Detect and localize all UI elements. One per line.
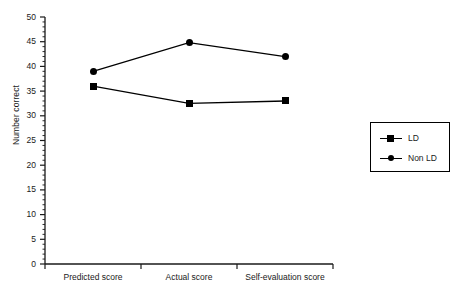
data-point-ld-2 bbox=[282, 97, 289, 104]
legend-label-non-ld: Non LD bbox=[408, 153, 437, 163]
y-tick-label: 45 bbox=[14, 37, 36, 46]
y-tick-label: 5 bbox=[14, 235, 36, 244]
y-tick-label: 50 bbox=[14, 13, 36, 22]
y-axis-ticks bbox=[40, 17, 45, 264]
data-point-ld-0 bbox=[90, 83, 97, 90]
data-point-non-ld-2 bbox=[282, 53, 289, 60]
y-tick-label: 25 bbox=[14, 136, 36, 145]
square-marker-icon bbox=[378, 132, 404, 144]
x-category-label: Predicted score bbox=[45, 272, 141, 282]
legend: LD Non LD bbox=[370, 122, 450, 172]
x-axis-ticks bbox=[45, 264, 333, 269]
y-tick-label: 15 bbox=[14, 185, 36, 194]
legend-entry-non-ld: Non LD bbox=[371, 152, 449, 164]
series-lines bbox=[93, 43, 285, 104]
x-category-label: Self-evaluation score bbox=[237, 272, 333, 282]
data-point-ld-1 bbox=[186, 100, 193, 107]
y-tick-label: 10 bbox=[14, 210, 36, 219]
x-category-label: Actual score bbox=[141, 272, 237, 282]
y-tick-label: 0 bbox=[14, 260, 36, 269]
y-tick-label: 20 bbox=[14, 161, 36, 170]
y-tick-label: 40 bbox=[14, 62, 36, 71]
axis-lines bbox=[45, 17, 333, 264]
y-tick-label: 30 bbox=[14, 111, 36, 120]
legend-entry-ld: LD bbox=[371, 132, 449, 144]
series-line-non-ld bbox=[93, 43, 285, 72]
data-point-non-ld-1 bbox=[186, 39, 193, 46]
y-tick-label: 35 bbox=[14, 87, 36, 96]
data-point-non-ld-0 bbox=[90, 68, 97, 75]
line-chart-figure: Number correct 05101520253035404550 Pred… bbox=[0, 0, 458, 292]
legend-label-ld: LD bbox=[408, 133, 419, 143]
circle-marker-icon bbox=[378, 152, 404, 164]
